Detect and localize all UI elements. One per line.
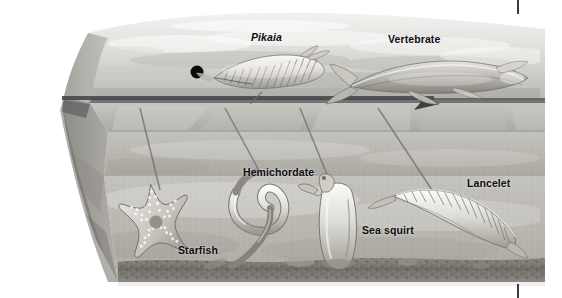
debris-shell-3 xyxy=(398,258,418,266)
label-sea-squirt: Sea squirt xyxy=(362,225,414,236)
scene-illustration xyxy=(0,0,562,298)
label-vertebrate: Vertebrate xyxy=(388,34,440,45)
water-facet-4 xyxy=(420,106,508,130)
vertebrate-body-highlight xyxy=(388,72,492,86)
top-white-mask xyxy=(0,0,562,10)
page-rule-bottom xyxy=(517,284,519,298)
bottom-white-mask xyxy=(0,286,562,298)
sea-squirt-body xyxy=(319,183,356,270)
water-facet-5 xyxy=(510,106,545,130)
label-lancelet: Lancelet xyxy=(467,178,510,189)
label-pikaia: Pikaia xyxy=(251,32,282,43)
time-arrow-shaft xyxy=(62,96,434,100)
right-white-mask xyxy=(545,0,562,298)
debris-shell-4 xyxy=(471,263,489,269)
label-hemichordate: Hemichordate xyxy=(243,167,314,178)
page-rule-top xyxy=(517,0,519,14)
block-base-edge xyxy=(118,282,545,286)
water-facet-3 xyxy=(312,106,410,130)
sea-squirt-oral-siphon xyxy=(319,174,334,192)
pikaia-highlight xyxy=(221,62,309,78)
label-starfish: Starfish xyxy=(178,245,218,256)
sea-squirt-siphon-opening xyxy=(322,176,326,180)
debris-shell-2 xyxy=(286,257,314,267)
chordate-evolution-figure: Pikaia Vertebrate Hemichordate Starfish … xyxy=(0,0,562,298)
sea-squirt-base xyxy=(322,259,354,269)
vertebrate-head-highlight xyxy=(500,72,524,84)
